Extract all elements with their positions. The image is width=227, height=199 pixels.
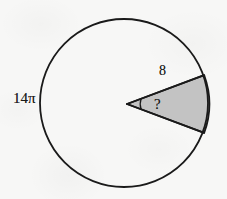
radius-length-label: 8 bbox=[159, 64, 166, 78]
geometry-figure: 14π 8 ? bbox=[0, 0, 227, 199]
unknown-angle-label: ? bbox=[154, 97, 161, 112]
shaded-sector bbox=[127, 75, 209, 133]
diameter-label: 14π bbox=[13, 91, 36, 106]
